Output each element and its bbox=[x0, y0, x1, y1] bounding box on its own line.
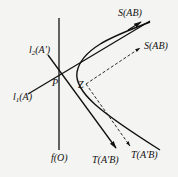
label-t-dashed: T(A'B) bbox=[131, 149, 158, 161]
label-f: f(O) bbox=[51, 152, 68, 164]
label-l2: l2(A') bbox=[29, 44, 51, 57]
line-l2 bbox=[48, 55, 116, 148]
label-l1: l1(A) bbox=[13, 91, 33, 104]
label-z: Z bbox=[78, 79, 84, 90]
label-p: P bbox=[51, 77, 58, 88]
label-t-solid: T(A'B) bbox=[92, 154, 119, 166]
line-l1 bbox=[28, 21, 150, 94]
geometry-diagram: S(AB) S(AB) l2(A') l1(A) P Z f(O) T(A'B)… bbox=[0, 0, 178, 177]
diagram-canvas: S(AB) S(AB) l2(A') l1(A) P Z f(O) T(A'B)… bbox=[0, 0, 178, 177]
label-s-ab-dashed: S(AB) bbox=[144, 40, 169, 52]
dashed-s-ab bbox=[86, 48, 140, 84]
label-s-ab-top: S(AB) bbox=[118, 7, 143, 19]
